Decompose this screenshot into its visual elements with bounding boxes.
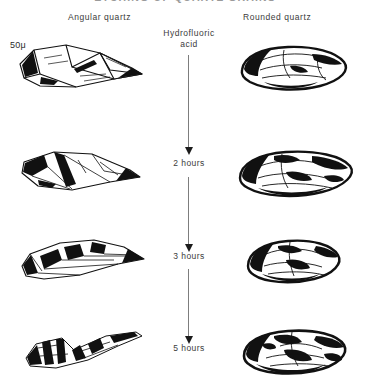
time-arrow-2 <box>188 177 189 245</box>
specimen-angular-stage-2h <box>14 140 154 212</box>
quartz-etching-figure: ETCHING OF QUARTZ GRAINS Angular quartz … <box>0 0 370 392</box>
stage-label-3-hours: 3 hours <box>141 251 237 261</box>
column-header-rounded: Rounded quartz <box>243 12 311 22</box>
specimen-angular-stage-5h <box>14 314 154 386</box>
specimen-angular-stage-0 <box>14 34 154 106</box>
specimen-angular-stage-3h <box>14 226 154 298</box>
reagent-label-line2: acid <box>180 39 198 49</box>
time-arrow-1 <box>188 55 189 148</box>
specimen-rounded-stage-0 <box>228 36 368 108</box>
time-arrow-3 <box>188 269 189 337</box>
figure-title: ETCHING OF QUARTZ GRAINS <box>0 0 370 3</box>
reagent-label: Hydrofluoric acid <box>141 28 237 49</box>
specimen-rounded-stage-3h <box>228 228 368 300</box>
specimen-rounded-stage-5h <box>228 316 368 388</box>
specimen-rounded-stage-2h <box>228 140 368 212</box>
stage-label-5-hours: 5 hours <box>141 343 237 353</box>
time-axis: 2 hours 3 hours 5 hours <box>141 55 237 365</box>
column-header-angular: Angular quartz <box>68 12 131 22</box>
stage-label-2-hours: 2 hours <box>141 158 237 168</box>
reagent-label-line1: Hydrofluoric <box>163 28 214 38</box>
